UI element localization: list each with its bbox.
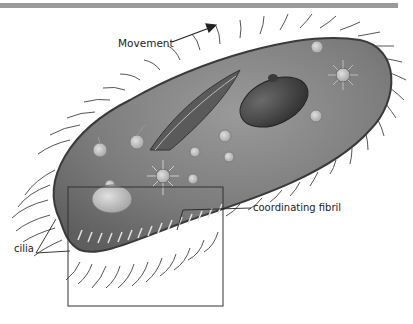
paramecium-illustration — [0, 0, 413, 324]
movement-label: Movement — [118, 38, 174, 49]
movement-arrow — [172, 24, 216, 42]
large-vacuole — [92, 185, 132, 213]
cilia-label: cilia — [14, 244, 34, 254]
micronucleus — [268, 74, 278, 82]
coordinating-fibril-label: coordinating fibril — [253, 203, 341, 213]
